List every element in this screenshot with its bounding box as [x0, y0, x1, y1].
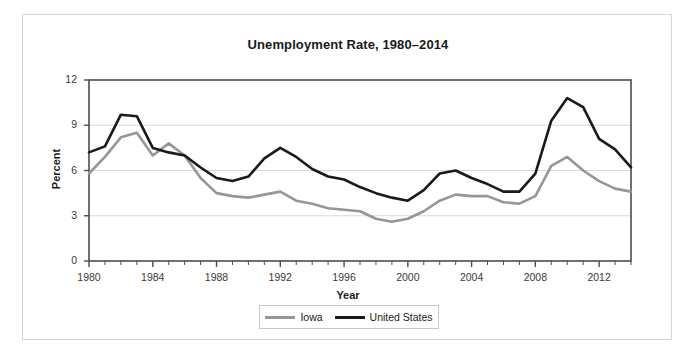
x-axis-tick-label: 2000: [388, 271, 428, 283]
x-axis-tick-label: 1992: [260, 271, 300, 283]
legend-swatch: [335, 316, 365, 319]
legend-swatch: [265, 316, 295, 319]
x-axis-tick-label: 1988: [197, 271, 237, 283]
x-axis-title: Year: [23, 289, 673, 301]
chart-legend: IowaUnited States: [259, 305, 439, 329]
legend-label: Iowa: [300, 311, 322, 323]
y-axis-tick-label: 6: [49, 164, 77, 176]
data-series-iowa: [89, 133, 631, 222]
plot-area: Percent Year 036912198019841988199219962…: [23, 15, 673, 341]
x-axis-tick-label: 2008: [515, 271, 555, 283]
x-axis-tick-label: 1984: [133, 271, 173, 283]
legend-label: United States: [370, 311, 433, 323]
legend-entry[interactable]: Iowa: [265, 311, 322, 323]
x-axis-tick-label: 2004: [452, 271, 492, 283]
x-axis-tick-label: 1996: [324, 271, 364, 283]
y-axis-tick-label: 9: [49, 118, 77, 130]
data-series-united-states: [89, 98, 631, 201]
legend-entry[interactable]: United States: [335, 311, 433, 323]
y-axis-tick-label: 3: [49, 209, 77, 221]
y-axis-tick-label: 0: [49, 254, 77, 266]
x-axis-tick-label: 2012: [579, 271, 619, 283]
y-axis-tick-label: 12: [49, 73, 77, 85]
chart-figure: Unemployment Rate, 1980–2014 Percent Yea…: [22, 14, 672, 340]
x-axis-tick-label: 1980: [69, 271, 109, 283]
